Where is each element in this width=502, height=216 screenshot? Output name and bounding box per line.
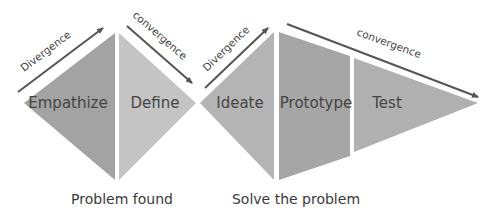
arrow-label-divergence-1: Divergence <box>18 28 73 74</box>
caption-solve-the-problem: Solve the problem <box>232 191 360 207</box>
stage-label-ideate: Ideate <box>216 94 263 112</box>
stage-label-test: Test <box>371 94 402 112</box>
stage-label-empathize: Empathize <box>28 94 107 112</box>
stage-label-prototype: Prototype <box>280 94 352 112</box>
caption-problem-found: Problem found <box>71 191 173 207</box>
stage-label-define: Define <box>131 94 180 112</box>
design-thinking-diagram: Empathize Define Ideate Prototype Test D… <box>0 0 502 216</box>
